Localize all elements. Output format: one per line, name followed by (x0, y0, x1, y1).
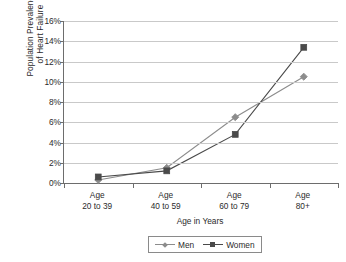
x-axis-category-label-line: 40 to 59 (132, 201, 201, 212)
y-axis-tick-label: 8% (28, 98, 61, 107)
y-axis-tick-label: 0% (28, 179, 61, 188)
chart-legend: MenWomen (148, 236, 262, 253)
y-axis-tick-mark (60, 41, 64, 42)
x-axis-tick-mark (270, 183, 271, 188)
x-axis-category-label: Age60 to 79 (200, 190, 269, 211)
x-axis-category-label-line: 80+ (269, 201, 338, 212)
y-axis-tick-mark (60, 102, 64, 103)
y-axis-tick-label: 6% (28, 118, 61, 127)
gridline (64, 143, 338, 144)
x-axis-category-label-line: Age (269, 190, 338, 201)
x-axis-category-label-line: Age (63, 190, 132, 201)
y-axis-tick-label: 14% (28, 37, 61, 46)
y-axis-tick-labels: 0%2%4%6%8%10%12%14%16% (28, 16, 61, 188)
y-axis-tick-label: 12% (28, 57, 61, 66)
legend-label: Women (226, 240, 254, 250)
data-point-marker (232, 132, 238, 138)
gridline (64, 102, 338, 103)
gridline (64, 41, 338, 42)
gridline (64, 21, 338, 22)
x-axis-category-label-line: 20 to 39 (63, 201, 132, 212)
x-axis-tick-mark (133, 183, 134, 188)
x-axis-title: Age in Years (63, 216, 337, 226)
y-axis-tick-label: 4% (28, 138, 61, 147)
x-axis-category-label-line: 60 to 79 (200, 201, 269, 212)
series-line-women (98, 47, 304, 177)
data-point-marker (300, 73, 307, 80)
plot-area (63, 21, 338, 184)
y-axis-tick-label: 2% (28, 158, 61, 167)
gridline (64, 62, 338, 63)
data-point-marker (164, 168, 170, 174)
x-axis-tick-labels: Age20 to 39Age40 to 59Age60 to 79Age80+ (63, 190, 337, 216)
x-axis-category-label: Age40 to 59 (132, 190, 201, 211)
y-axis-tick-mark (60, 143, 64, 144)
gridline (64, 163, 338, 164)
legend-entry-women[interactable]: Women (203, 240, 254, 250)
y-axis-tick-label: 16% (28, 17, 61, 26)
x-axis-tick-mark (201, 183, 202, 188)
gridline (64, 82, 338, 83)
x-axis-category-label: Age80+ (269, 190, 338, 211)
legend-swatch-square-icon (203, 240, 223, 249)
legend-swatch-diamond-icon (155, 240, 175, 249)
x-axis-category-label: Age20 to 39 (63, 190, 132, 211)
x-axis-tick-mark (338, 183, 339, 188)
y-axis-tick-mark (60, 82, 64, 83)
series-line-men (98, 77, 304, 180)
x-axis-category-label-line: Age (132, 190, 201, 201)
heart-failure-prevalence-chart: Population Prevalence of Heart Failure 0… (0, 0, 346, 262)
data-point-marker (95, 174, 101, 180)
y-axis-tick-mark (60, 122, 64, 123)
data-point-marker (301, 44, 307, 50)
x-axis-category-label-line: Age (200, 190, 269, 201)
y-axis-tick-mark (60, 21, 64, 22)
x-axis-tick-mark (64, 183, 65, 188)
gridline (64, 122, 338, 123)
y-axis-tick-label: 10% (28, 77, 61, 86)
y-axis-tick-mark (60, 163, 64, 164)
y-axis-tick-mark (60, 62, 64, 63)
legend-entry-men[interactable]: Men (155, 240, 194, 250)
legend-label: Men (178, 240, 194, 250)
